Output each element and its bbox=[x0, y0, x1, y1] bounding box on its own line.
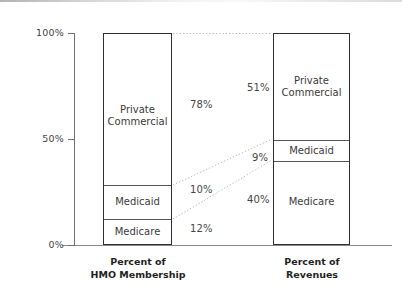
segment-label: Private Commercial bbox=[104, 104, 171, 128]
category-label-revenues: Percent of Revenues bbox=[264, 256, 360, 281]
y-tick-mark-100 bbox=[68, 33, 75, 34]
y-tick-mark-50 bbox=[68, 139, 75, 140]
segment-medicare-membership[interactable]: Medicare bbox=[104, 219, 171, 244]
scan-artifact-line bbox=[0, 0, 402, 2]
y-tick-label-50: 50% bbox=[42, 133, 64, 144]
y-tick-label-0-wrap: 0% bbox=[0, 239, 64, 251]
segment-medicaid-membership[interactable]: Medicaid bbox=[104, 185, 171, 219]
segment-label: Medicare bbox=[289, 196, 335, 208]
bar-hmo-membership[interactable]: Private Commercial Medicaid Medicare bbox=[103, 33, 172, 245]
y-tick-mark-0 bbox=[68, 245, 75, 246]
segment-medicare-revenues[interactable]: Medicare bbox=[274, 161, 349, 243]
value-label-private-commercial-revenues: 51% bbox=[247, 82, 270, 93]
segment-private-commercial-membership[interactable]: Private Commercial bbox=[104, 34, 171, 197]
value-label-medicare-membership: 12% bbox=[190, 223, 213, 234]
value-label-medicaid-membership: 10% bbox=[190, 184, 213, 195]
y-tick-label-50-wrap: 50% bbox=[0, 133, 64, 145]
segment-label: Medicaid bbox=[289, 145, 334, 157]
value-label-private-commercial-membership: 78% bbox=[190, 99, 213, 110]
y-tick-label-100-wrap: 100% bbox=[0, 27, 64, 39]
segment-private-commercial-revenues[interactable]: Private Commercial bbox=[274, 34, 349, 140]
category-label-hmo-membership: Percent of HMO Membership bbox=[62, 256, 214, 281]
x-axis-baseline bbox=[62, 245, 392, 246]
segment-label: Medicaid bbox=[115, 196, 160, 208]
value-label-medicaid-revenues: 9% bbox=[252, 152, 268, 163]
value-label-medicare-revenues: 40% bbox=[247, 194, 270, 205]
y-tick-label-100: 100% bbox=[36, 27, 64, 38]
segment-medicaid-revenues[interactable]: Medicaid bbox=[274, 140, 349, 161]
segment-label: Private Commercial bbox=[274, 75, 349, 99]
segment-label: Medicare bbox=[115, 226, 161, 238]
y-tick-label-0: 0% bbox=[49, 239, 64, 250]
stacked-bar-chart: 100% 50% 0% Private Commercial Medicaid … bbox=[0, 0, 402, 297]
bar-revenues[interactable]: Private Commercial Medicaid Medicare bbox=[273, 33, 350, 245]
connector-line-medicare-top bbox=[173, 160, 272, 219]
